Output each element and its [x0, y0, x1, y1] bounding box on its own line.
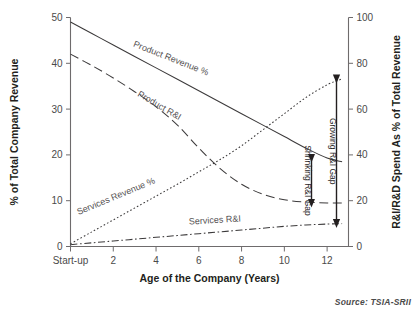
x-axis-tick-label: 4	[153, 255, 159, 266]
series-label-product-r-i: Product R&I	[136, 89, 183, 122]
y2-axis-tick-label: 80	[357, 58, 369, 69]
chart-container: 01020304050020406080100Start-up24681012A…	[0, 0, 417, 312]
series-label-services-r-i: Services R&I	[189, 213, 242, 226]
x-axis-tick-label: 12	[322, 255, 334, 266]
y2-axis-title: R&I/R&D Spend As % of Total Revenue	[390, 35, 402, 229]
series-line-product-revenue	[71, 22, 343, 162]
x-axis-title: Age of the Company (Years)	[139, 272, 279, 284]
y2-axis-tick-label: 20	[357, 195, 369, 206]
series-label-services-revenue: Services Revenue %	[75, 176, 156, 217]
y-axis-tick-label: 10	[51, 195, 63, 206]
y-axis-tick-label: 20	[51, 149, 63, 160]
y2-axis-tick-label: 60	[357, 104, 369, 115]
annotation-label-shrinking-gap: Shrinking R&I Gap	[303, 145, 313, 216]
annotation-label-growing-gap: Growing R&I Gap	[328, 118, 338, 185]
y-axis-tick-label: 30	[51, 104, 63, 115]
y2-axis-tick-label: 0	[357, 241, 363, 252]
series-label-product-revenue: Product Revenue %	[132, 39, 210, 78]
y2-axis-tick-label: 100	[357, 12, 374, 23]
x-axis-tick-label: 2	[110, 255, 116, 266]
y-axis-tick-label: 0	[57, 241, 63, 252]
series-line-services-r-i	[71, 224, 343, 245]
x-axis-tick-label: 8	[239, 255, 245, 266]
x-axis-tick-label: 6	[196, 255, 202, 266]
x-axis-tick-label: 10	[279, 255, 291, 266]
y-axis-tick-label: 40	[51, 58, 63, 69]
x-axis-tick-label: Start-up	[53, 255, 89, 266]
y-axis-tick-label: 50	[51, 12, 63, 23]
y-axis-title: % of Total Company Revenue	[8, 58, 20, 205]
y2-axis-tick-label: 40	[357, 149, 369, 160]
business-revenue-line-chart: 01020304050020406080100Start-up24681012A…	[0, 0, 417, 312]
source-note: Source: TSIA-SRII	[335, 297, 411, 307]
